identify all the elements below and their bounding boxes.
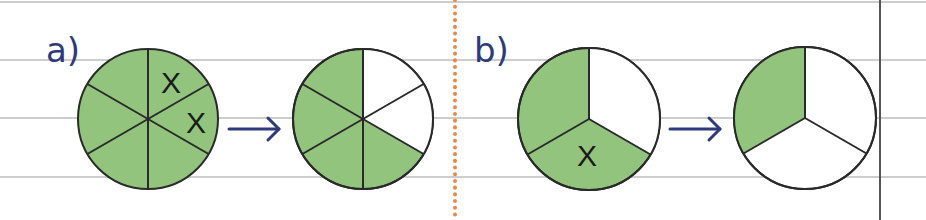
pie-a-before: X X: [78, 49, 218, 189]
cross-mark: X: [577, 139, 597, 172]
fraction-diagram: a) b) X X: [0, 0, 926, 220]
cross-mark: X: [161, 66, 181, 99]
arrow-icon: [670, 118, 720, 140]
pie-b-after: [734, 47, 876, 189]
cross-mark: X: [186, 106, 206, 139]
pie-a-after: [293, 49, 433, 189]
arrow-icon: [229, 118, 279, 140]
part-a-label: a): [46, 30, 80, 70]
pie-b-before: X: [518, 48, 660, 190]
part-b-label: b): [474, 30, 509, 70]
